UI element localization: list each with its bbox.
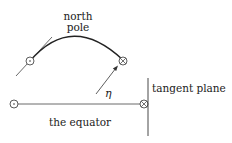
great-circle-arc: [30, 36, 123, 61]
geodesic-diagram: η north pole tangent plane the equator: [0, 0, 232, 143]
pole-label: pole: [67, 21, 90, 33]
circled-times-icon: [119, 57, 127, 65]
tangent-plane-label: tangent plane: [152, 82, 226, 94]
circled-dot-icon: [10, 100, 18, 108]
arrowhead-icon: [113, 66, 118, 72]
tangent-line-left: [16, 37, 52, 76]
equator-label: the equator: [49, 116, 112, 128]
circled-dot-icon: [26, 57, 34, 65]
eta-label: η: [105, 87, 112, 100]
circled-times-icon: [140, 100, 148, 108]
